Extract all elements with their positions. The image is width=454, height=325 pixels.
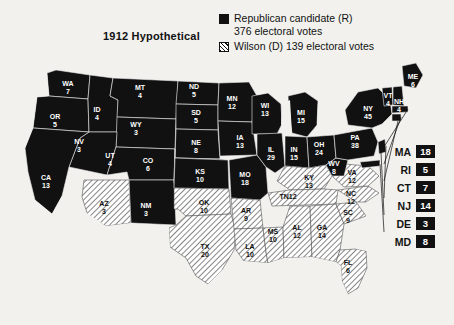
state-votes-OH: 24 xyxy=(315,149,323,156)
state-votes-KS: 10 xyxy=(196,176,204,183)
state-label-UT: UT xyxy=(105,152,115,159)
state-votes-AR: 9 xyxy=(244,215,248,222)
state-votes-ND: 5 xyxy=(192,91,196,98)
callout-abbr-MA: MA xyxy=(387,146,411,158)
callout-votes-CT: 7 xyxy=(416,181,435,194)
callout-votes-NJ: 14 xyxy=(416,199,435,212)
state-label-IL: IL xyxy=(268,146,275,153)
state-label-MO: MO xyxy=(239,171,251,178)
state-label-NY: NY xyxy=(363,105,373,112)
state-label-MN: MN xyxy=(227,95,238,102)
state-votes-IA: 13 xyxy=(236,142,244,149)
state-votes-AZ: 3 xyxy=(102,208,106,215)
page-title: 1912 Hypothetical xyxy=(103,30,200,42)
state-votes-OK: 10 xyxy=(200,207,208,214)
callout-votes-MD: 8 xyxy=(416,235,435,248)
state-votes-AL: 12 xyxy=(293,232,301,239)
callout-row-RI: RI5 xyxy=(387,161,435,178)
state-label-PA: PA xyxy=(350,134,359,141)
state-OR xyxy=(33,96,89,132)
black-square-icon xyxy=(219,14,229,24)
state-votes-TX: 20 xyxy=(201,251,209,258)
state-votes-IL: 29 xyxy=(267,154,275,161)
callout-row-DE: DE3 xyxy=(387,215,435,232)
callout-row-MA: MA18 xyxy=(387,143,435,160)
state-votes-IN: 15 xyxy=(290,154,298,161)
state-votes-VA: 12 xyxy=(348,177,356,184)
callout-abbr-CT: CT xyxy=(387,182,411,194)
state-label-MT: MT xyxy=(135,84,146,91)
state-label-NC: NC xyxy=(346,190,356,197)
state-label-OH: OH xyxy=(314,141,325,148)
legend: Republican candidate (R) 376 electoral v… xyxy=(219,12,374,53)
state-WY xyxy=(116,117,176,149)
state-votes-MT: 4 xyxy=(138,92,142,99)
state-votes-MN: 12 xyxy=(228,103,236,110)
legend-votes-republican: 376 electoral votes xyxy=(234,25,374,37)
state-label-WI: WI xyxy=(261,102,270,109)
callout-row-CT: CT7 xyxy=(387,179,435,196)
state-votes-MS: 10 xyxy=(269,236,277,243)
state-label-MI: MI xyxy=(297,109,305,116)
state-label-WA: WA xyxy=(62,80,73,87)
state-votes-FL: 6 xyxy=(346,267,350,274)
state-NM xyxy=(129,180,176,225)
state-label-CO: CO xyxy=(143,157,154,164)
state-label-OR: OR xyxy=(50,113,61,120)
state-votes-WY: 3 xyxy=(134,129,138,136)
state-label-NH: NH xyxy=(394,98,404,105)
state-label-ID: ID xyxy=(94,106,101,113)
state-votes-SD: 5 xyxy=(194,117,198,124)
state-votes-WV: 8 xyxy=(332,168,336,175)
state-votes-MI: 15 xyxy=(297,117,305,124)
state-label-FL: FL xyxy=(344,259,353,266)
state-label-VA: VA xyxy=(347,169,356,176)
state-votes-NC: 12 xyxy=(347,198,355,205)
state-label-TN: TN12 xyxy=(279,193,296,200)
legend-label-democrat: Wilson (D) 139 electoral votes xyxy=(234,40,374,52)
state-label-OK: OK xyxy=(199,199,210,206)
callout-abbr-MD: MD xyxy=(387,236,411,248)
state-label-GA: GA xyxy=(317,224,328,231)
callout-votes-RI: 5 xyxy=(416,163,435,176)
state-votes-ME: 6 xyxy=(411,81,415,88)
callout-abbr-DE: DE xyxy=(387,218,411,230)
hatched-square-icon xyxy=(219,42,229,52)
lake-huron-erie xyxy=(317,96,341,134)
state-label-SC: SC xyxy=(343,209,353,216)
state-label-KY: KY xyxy=(304,174,314,181)
callout-abbr-RI: RI xyxy=(387,164,411,176)
state-label-WY: WY xyxy=(130,121,142,128)
legend-row-democrat: Wilson (D) 139 electoral votes xyxy=(219,40,374,52)
state-label-IN: IN xyxy=(291,146,298,153)
state-votes-OR: 5 xyxy=(53,121,57,128)
callout-abbr-NJ: NJ xyxy=(387,200,411,212)
state-votes-LA: 10 xyxy=(246,251,254,258)
state-votes-CO: 6 xyxy=(146,165,150,172)
state-votes-WA: 7 xyxy=(66,88,70,95)
state-votes-NV: 3 xyxy=(77,146,81,153)
state-label-TX: TX xyxy=(201,243,210,250)
state-UT xyxy=(107,147,175,180)
state-label-VT: VT xyxy=(384,92,394,99)
state-label-NM: NM xyxy=(141,202,152,209)
state-votes-NH: 4 xyxy=(397,106,401,113)
state-votes-MO: 18 xyxy=(241,179,249,186)
state-votes-CA: 13 xyxy=(42,182,50,189)
map-states-layer xyxy=(0,60,430,300)
lake-superior xyxy=(253,74,312,95)
state-label-KS: KS xyxy=(195,168,205,175)
state-votes-KY: 13 xyxy=(305,182,313,189)
state-NC xyxy=(338,186,379,202)
state-label-MS: MS xyxy=(268,228,279,235)
legend-label-republican: Republican candidate (R) xyxy=(234,12,352,24)
gulf-water xyxy=(205,257,348,300)
state-label-WV: WV xyxy=(328,160,340,167)
state-MD-sm xyxy=(360,160,380,168)
state-votes-SC: 9 xyxy=(346,217,350,224)
state-votes-WI: 13 xyxy=(261,110,269,117)
state-label-LA: LA xyxy=(245,243,254,250)
callout-votes-MA: 18 xyxy=(416,145,435,158)
state-label-ME: ME xyxy=(408,73,419,80)
state-votes-GA: 14 xyxy=(318,232,326,239)
